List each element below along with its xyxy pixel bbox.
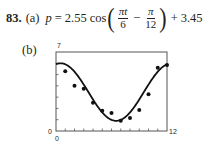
x-max-label: 12 bbox=[169, 128, 177, 135]
axis-ticks bbox=[56, 63, 158, 131]
data-point bbox=[110, 111, 114, 115]
data-point bbox=[137, 108, 141, 112]
data-point bbox=[147, 92, 151, 96]
data-point bbox=[100, 109, 104, 113]
data-point bbox=[156, 66, 160, 70]
data-point bbox=[165, 63, 169, 67]
y-max-label: 7 bbox=[57, 42, 61, 49]
y-min-label: 0 bbox=[48, 128, 52, 135]
scatter-plot-with-model: 7 0 0 12 bbox=[0, 0, 207, 151]
x-min-label: 0 bbox=[55, 135, 59, 142]
data-points bbox=[63, 63, 169, 123]
data-point bbox=[91, 101, 95, 105]
data-point bbox=[73, 84, 77, 88]
data-point bbox=[128, 116, 132, 120]
data-point bbox=[119, 119, 123, 123]
data-point bbox=[63, 69, 67, 73]
data-point bbox=[82, 87, 86, 91]
